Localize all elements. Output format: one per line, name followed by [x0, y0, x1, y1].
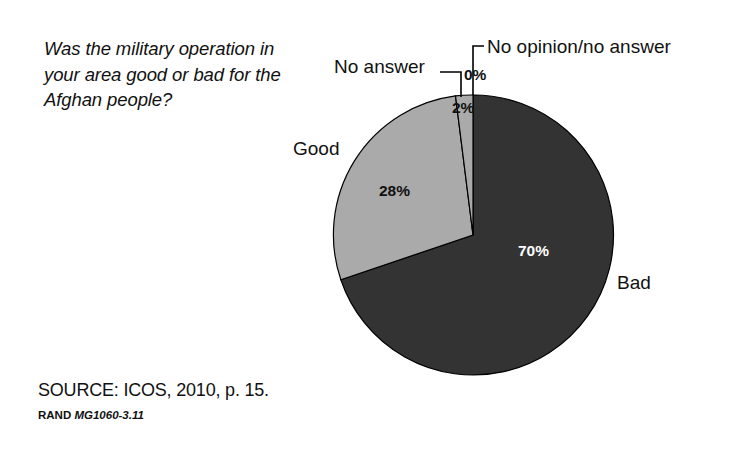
pie-chart-figure: Was the military operation in your area … [0, 0, 737, 449]
slice-value-no-answer: 2% [452, 99, 474, 117]
figure-credit: RAND MG1060-3.11 [38, 409, 144, 421]
slice-value-no-opinion: 0% [464, 66, 486, 84]
rand-wordmark: RAND [38, 409, 71, 421]
slice-value-good: 28% [379, 182, 410, 200]
slice-value-bad: 70% [518, 242, 549, 260]
slice-label-good: Good [293, 138, 339, 160]
source-note: SOURCE: ICOS, 2010, p. 15. [38, 380, 269, 401]
slice-label-no-opinion: No opinion/no answer [487, 36, 671, 58]
slice-label-bad: Bad [617, 272, 651, 294]
leader-line-no-answer [440, 72, 461, 97]
slice-label-no-answer: No answer [334, 56, 425, 78]
figure-id: MG1060-3.11 [74, 409, 143, 421]
